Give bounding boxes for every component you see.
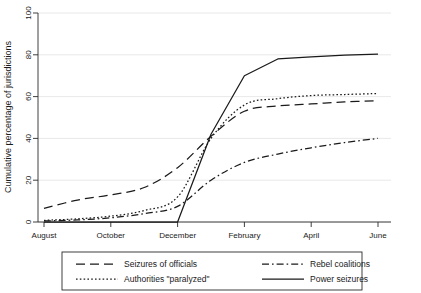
x-tick-label: October [97, 231, 126, 240]
gridlines [38, 13, 391, 222]
y-axis-ticks: 020406080100 [24, 6, 38, 224]
y-tick-label: 20 [24, 175, 33, 184]
legend-label: Seizures of officials [124, 259, 197, 269]
series-line-rebel-coalitions [44, 138, 378, 221]
series-line-seizures-of-officials [44, 101, 378, 209]
x-tick-label: August [32, 231, 58, 240]
legend-entries: Seizures of officialsRebel coalitionsAut… [76, 259, 370, 284]
y-axis-label: Cumulative percentage of jurisdictions [3, 40, 13, 193]
legend-box [62, 252, 362, 290]
line-chart: 020406080100 AugustOctoberDecemberFebrua… [0, 0, 421, 293]
y-tick-label: 0 [24, 219, 33, 224]
legend-label: Rebel coalitions [310, 259, 370, 269]
x-tick-label: February [228, 231, 260, 240]
y-tick-label: 80 [24, 50, 33, 59]
y-tick-label: 60 [24, 92, 33, 101]
y-tick-label: 40 [24, 133, 33, 142]
x-tick-label: December [159, 231, 196, 240]
x-tick-label: June [369, 231, 387, 240]
series-line-authorities-paralyzed [44, 93, 378, 220]
legend-label: Authorities "paralyzed" [124, 274, 209, 284]
y-tick-label: 100 [24, 6, 33, 20]
x-axis-ticks: AugustOctoberDecemberFebruaryAprilJune [32, 222, 388, 240]
x-tick-label: April [303, 231, 319, 240]
chart-figure: 020406080100 AugustOctoberDecemberFebrua… [0, 0, 421, 293]
legend-label: Power seizures [310, 274, 368, 284]
